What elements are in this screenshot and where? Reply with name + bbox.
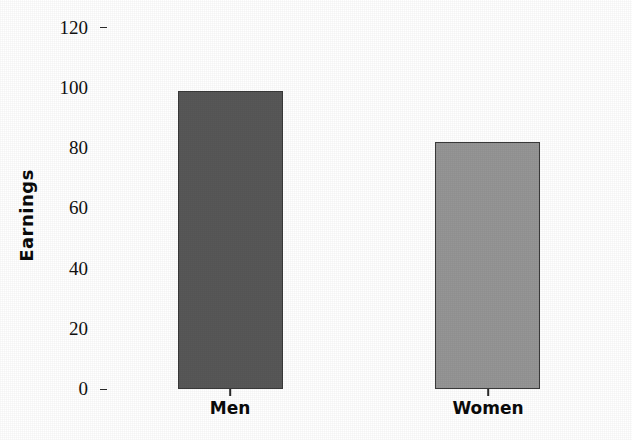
y-tick-label: 60 (28, 195, 88, 221)
bar-women[interactable] (435, 142, 540, 389)
x-tick-mark (229, 389, 231, 396)
x-tick-mark (487, 389, 489, 396)
y-tick-label: 100 (28, 75, 88, 101)
y-tick-label: 20 (28, 316, 88, 342)
y-tick-label: 0 (28, 376, 88, 402)
x-tick-label: Women (408, 398, 568, 418)
bar-men[interactable] (178, 91, 283, 389)
bar-chart-figure: Earnings 120 100 80 60 40 20 0 Men Women (0, 0, 632, 440)
y-tick-label: 40 (28, 256, 88, 282)
y-tick-label: 80 (28, 135, 88, 161)
x-tick-label: Men (150, 398, 310, 418)
y-tick-label: 120 (28, 15, 88, 41)
